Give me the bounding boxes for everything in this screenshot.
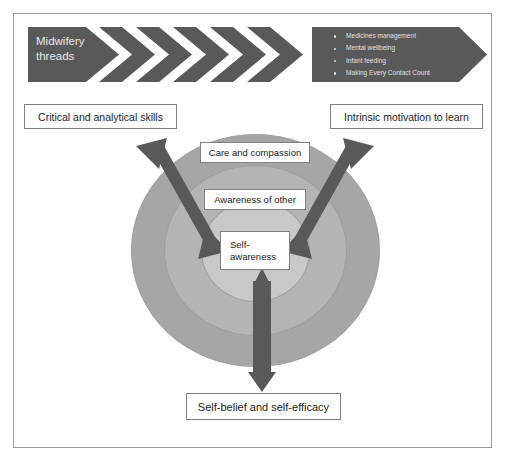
label-self-awareness: Self- awareness (220, 231, 290, 270)
label-awareness-of-other: Awareness of other (204, 189, 306, 210)
box-critical-and-analytical-skills: Critical and analytical skills (24, 104, 177, 129)
box-intrinsic-motivation-to-learn: Intrinsic motivation to learn (330, 104, 483, 129)
midwifery-threads-bullet-list: Medicines management Mental wellbeing In… (330, 30, 480, 80)
midwifery-threads-label: Midwifery threads (36, 34, 126, 64)
bullet-item: Infant feeding (330, 55, 480, 67)
bullet-item: Mental wellbeing (330, 42, 480, 54)
bullet-item: Medicines management (330, 30, 480, 42)
diagram-canvas: Midwifery threads Medicines management M… (0, 0, 508, 463)
label-care-and-compassion: Care and compassion (200, 142, 310, 163)
box-self-belief-and-self-efficacy: Self-belief and self-efficacy (186, 393, 341, 420)
bullet-item: Making Every Contact Count (330, 67, 480, 79)
